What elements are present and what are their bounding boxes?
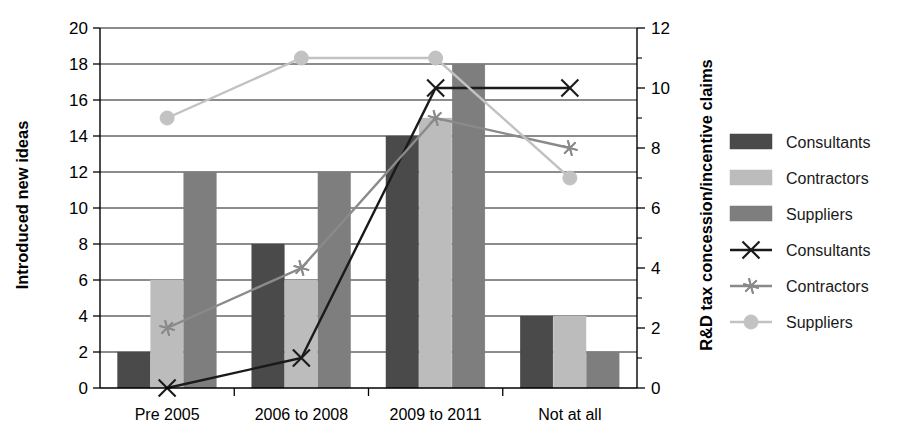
- legend-swatch: [730, 134, 772, 149]
- marker-asterisk: [296, 262, 307, 273]
- legend-item[interactable]: Consultants: [730, 242, 871, 260]
- bar: [452, 64, 485, 388]
- legend: ConsultantsContractorsSuppliersConsultan…: [730, 134, 871, 331]
- right-tick-label: 0: [651, 379, 660, 398]
- left-tick-label: 18: [69, 55, 88, 74]
- marker-circle: [563, 171, 577, 185]
- left-tick-label: 14: [69, 127, 88, 146]
- line-series-group: [159, 51, 579, 397]
- left-tick-label: 12: [69, 163, 88, 182]
- bar: [318, 172, 351, 388]
- legend-label: Consultants: [786, 242, 871, 259]
- legend-label: Consultants: [786, 134, 871, 151]
- legend-label: Suppliers: [786, 314, 853, 331]
- legend-label: Suppliers: [786, 206, 853, 223]
- x-category-label: Not at all: [538, 406, 601, 423]
- left-axis: 02468101214161820: [69, 19, 100, 398]
- right-tick-label: 2: [651, 319, 660, 338]
- right-axis: 024681012: [637, 19, 670, 398]
- marker-circle: [294, 51, 308, 65]
- line-path: [167, 88, 570, 388]
- left-tick-label: 8: [79, 235, 88, 254]
- legend-label: Contractors: [786, 278, 869, 295]
- legend-label: Contractors: [786, 170, 869, 187]
- right-tick-label: 10: [651, 79, 670, 98]
- bar: [419, 118, 452, 388]
- right-tick-label: 4: [651, 259, 660, 278]
- left-tick-label: 4: [79, 307, 88, 326]
- chart-figure: 02468101214161820 024681012 Pre 20052006…: [0, 0, 899, 447]
- right-tick-label: 8: [651, 139, 660, 158]
- x-axis: Pre 20052006 to 20082009 to 2011Not at a…: [100, 388, 637, 423]
- legend-item[interactable]: Consultants: [730, 134, 871, 151]
- right-tick-label: 6: [651, 199, 660, 218]
- left-tick-label: 2: [79, 343, 88, 362]
- legend-item[interactable]: Suppliers: [730, 314, 853, 331]
- right-axis-title: R&D tax concession/incentive claims: [697, 59, 715, 351]
- legend-swatch: [730, 170, 772, 185]
- x-category-label: 2009 to 2011: [390, 406, 482, 423]
- line-path: [167, 58, 570, 178]
- marker-circle: [744, 315, 758, 329]
- x-category-label: 2006 to 2008: [255, 406, 349, 423]
- left-tick-label: 0: [79, 379, 88, 398]
- bar: [117, 352, 150, 388]
- bar: [586, 352, 619, 388]
- left-tick-label: 20: [69, 19, 88, 38]
- left-axis-title: Introduced new ideas: [13, 121, 31, 290]
- legend-item[interactable]: Contractors: [730, 278, 869, 295]
- bar: [184, 172, 217, 388]
- bar: [553, 316, 586, 388]
- bar: [520, 316, 553, 388]
- marker-circle: [160, 111, 174, 125]
- left-tick-label: 16: [69, 91, 88, 110]
- legend-item[interactable]: Suppliers: [730, 206, 853, 223]
- bar: [151, 280, 184, 388]
- legend-swatch: [730, 206, 772, 221]
- combo-chart-canvas: 02468101214161820 024681012 Pre 20052006…: [0, 0, 899, 447]
- marker-circle: [429, 51, 443, 65]
- bar: [386, 136, 419, 388]
- left-tick-label: 10: [69, 199, 88, 218]
- right-tick-label: 12: [651, 19, 670, 38]
- legend-item[interactable]: Contractors: [730, 170, 869, 187]
- x-category-label: Pre 2005: [135, 406, 200, 423]
- left-tick-label: 6: [79, 271, 88, 290]
